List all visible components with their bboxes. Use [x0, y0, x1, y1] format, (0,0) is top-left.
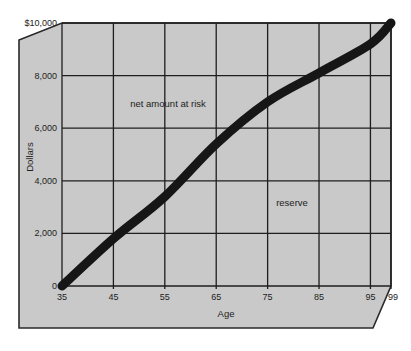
y-axis-title: Dollars [24, 142, 35, 172]
y-tick-label: 0 [52, 281, 57, 291]
x-tick-label: 75 [263, 292, 273, 302]
y-tick-label: 6,000 [34, 123, 57, 133]
annotation-reserve: reserve [276, 197, 308, 208]
annotation-net-amount-at-risk: net amount at risk [130, 98, 206, 109]
x-tick-label: 35 [57, 292, 67, 302]
y-tick-label: 4,000 [34, 176, 57, 186]
x-axis-title: Age [218, 308, 235, 319]
x-tick-label: 95 [365, 292, 375, 302]
y-tick-label: 2,000 [34, 228, 57, 238]
y-tick-label: $10,000 [24, 18, 57, 28]
x-tick-label: 45 [108, 292, 118, 302]
x-tick-label: 65 [211, 292, 221, 302]
x-tick-label: 55 [160, 292, 170, 302]
x-tick-label: 99 [388, 292, 398, 302]
chart-canvas: 02,0004,0006,0008,000$10,000 35455565758… [0, 0, 411, 351]
x-tick-label: 85 [314, 292, 324, 302]
y-tick-label: 8,000 [34, 71, 57, 81]
